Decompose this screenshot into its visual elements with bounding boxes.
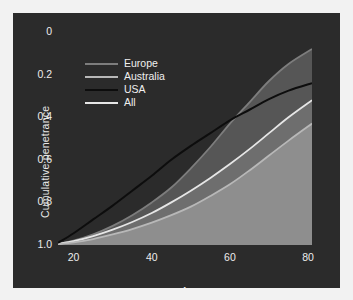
y-tick-label: 0 bbox=[26, 25, 52, 37]
legend-label-all: All bbox=[124, 96, 136, 109]
legend-swatch-usa bbox=[85, 89, 118, 91]
plot-area bbox=[13, 13, 340, 288]
legend-item-all: All bbox=[85, 96, 165, 109]
chart-legend: Europe Australia USA All bbox=[85, 57, 165, 109]
legend-item-australia: Australia bbox=[85, 70, 165, 83]
legend-swatch-europe bbox=[85, 63, 118, 65]
x-tick-label: 60 bbox=[215, 251, 245, 263]
legend-label-usa: USA bbox=[124, 83, 146, 96]
legend-swatch-all bbox=[85, 102, 118, 104]
legend-item-europe: Europe bbox=[85, 57, 165, 70]
y-tick-label: 0.2 bbox=[26, 68, 52, 80]
figure-container: Europe Australia USA All 1.00.80.60.40.2… bbox=[0, 0, 353, 300]
legend-item-usa: USA bbox=[85, 83, 165, 96]
legend-label-australia: Australia bbox=[124, 70, 165, 83]
x-tick-label: 80 bbox=[293, 251, 323, 263]
y-axis-label: Cumulative penetrance bbox=[39, 106, 51, 218]
legend-label-europe: Europe bbox=[124, 57, 158, 70]
y-tick-label: 1.0 bbox=[26, 238, 52, 250]
legend-swatch-australia bbox=[85, 76, 118, 78]
x-tick-label: 20 bbox=[59, 251, 89, 263]
chart-panel: Europe Australia USA All 1.00.80.60.40.2… bbox=[13, 13, 340, 288]
x-axis-label: Age bbox=[181, 285, 201, 288]
x-tick-label: 40 bbox=[137, 251, 167, 263]
